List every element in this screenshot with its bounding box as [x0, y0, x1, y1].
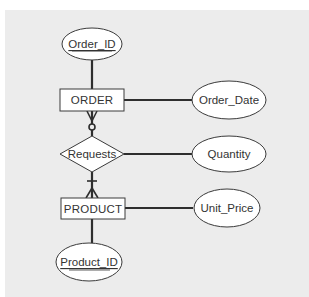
attribute-label: Product_ID — [60, 256, 118, 268]
attribute-label: Unit_Price — [200, 202, 253, 214]
attribute-label: Order_ID — [68, 38, 115, 50]
attribute-label: Order_Date — [199, 94, 259, 106]
attribute-quantity[interactable]: Quantity — [192, 136, 266, 172]
attribute-order-id[interactable]: Order_ID — [62, 28, 122, 60]
relationship-label: Requests — [68, 148, 117, 160]
attribute-product-id[interactable]: Product_ID — [56, 243, 122, 281]
entity-order[interactable]: ORDER — [60, 89, 124, 111]
attribute-unit-price[interactable]: Unit_Price — [194, 189, 260, 227]
relationship-requests[interactable]: Requests — [60, 136, 124, 172]
attribute-label: Quantity — [208, 148, 251, 160]
attribute-order-date[interactable]: Order_Date — [192, 81, 266, 119]
entity-label: ORDER — [71, 94, 114, 106]
entity-label: PRODUCT — [64, 203, 122, 215]
entity-product[interactable]: PRODUCT — [61, 198, 125, 219]
er-diagram: Order_ID ORDER Order_Date Requests Quant… — [0, 0, 309, 297]
